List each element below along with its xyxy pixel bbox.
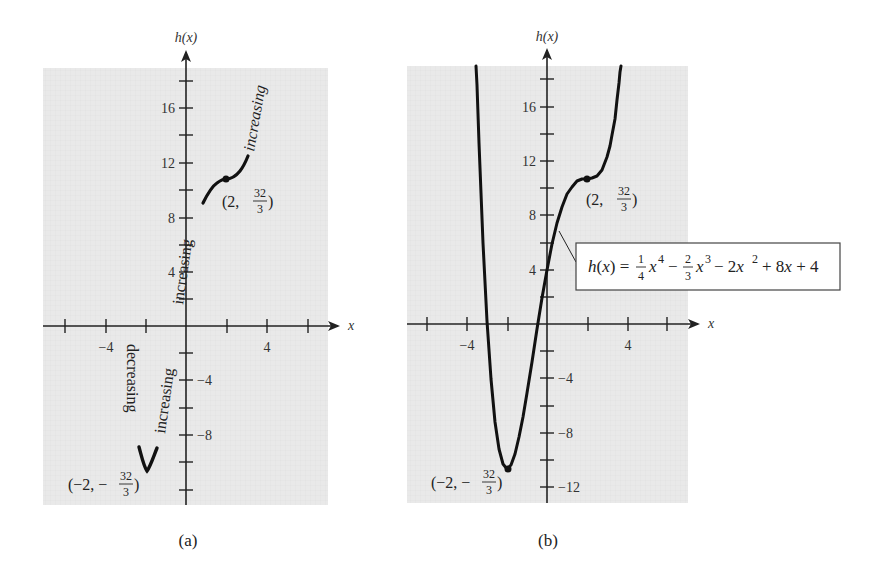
y-tick-label-8-a: 8 — [168, 211, 175, 226]
svg-text:3: 3 — [705, 252, 711, 266]
y-tick-label-neg8-b: −8 — [558, 426, 573, 441]
point-min-b — [505, 466, 512, 473]
y-tick-label-4-b: 4 — [529, 263, 536, 278]
svg-text:32: 32 — [483, 467, 495, 481]
svg-text:(−2, −: (−2, − — [431, 474, 470, 492]
svg-text:−: − — [668, 257, 678, 276]
x-axis-label-a: x — [347, 318, 355, 333]
point-max-a — [223, 176, 230, 183]
svg-text:3: 3 — [257, 202, 263, 216]
x-axis-label-b: x — [707, 316, 715, 331]
figure-canvas: h(x) x −4 4 16 12 8 4 −4 −8 (2, 32 3 ) (… — [0, 0, 883, 577]
x-tick-label-4-b: 4 — [625, 338, 632, 353]
svg-text:4: 4 — [638, 269, 644, 283]
svg-text:): ) — [134, 476, 139, 494]
svg-text:3: 3 — [685, 269, 691, 283]
y-tick-label-8-b: 8 — [529, 208, 536, 223]
y-tick-label-16-b: 16 — [522, 100, 536, 115]
svg-text:h(x) =: h(x) = — [588, 257, 629, 276]
x-tick-label-4-a: 4 — [264, 340, 271, 355]
caption-b: (b) — [538, 531, 558, 550]
y-tick-label-neg4-b: −4 — [558, 371, 573, 386]
panel-a: h(x) x −4 4 16 12 8 4 −4 −8 (2, 32 3 ) (… — [43, 30, 355, 550]
annotation-decreasing-a: decreasing — [123, 344, 141, 412]
y-tick-label-16-a: 16 — [161, 101, 175, 116]
svg-text:): ) — [268, 193, 273, 211]
y-tick-label-12-a: 12 — [161, 156, 175, 171]
y-tick-label-neg4-a: −4 — [197, 373, 212, 388]
svg-text:32: 32 — [618, 184, 630, 198]
svg-text:x: x — [695, 257, 704, 276]
svg-text:+ 8x + 4: + 8x + 4 — [762, 257, 819, 276]
svg-text:− 2x: − 2x — [714, 257, 744, 276]
svg-text:3: 3 — [123, 485, 129, 499]
x-tick-label-neg4-b: −4 — [460, 338, 475, 353]
svg-text:): ) — [632, 191, 637, 209]
svg-text:): ) — [497, 474, 502, 492]
y-tick-label-neg8-a: −8 — [197, 428, 212, 443]
svg-text:(−2, −: (−2, − — [68, 476, 107, 494]
svg-text:32: 32 — [120, 469, 132, 483]
svg-text:2: 2 — [685, 252, 691, 266]
svg-text:2: 2 — [752, 252, 758, 266]
svg-text:32: 32 — [254, 186, 266, 200]
point-max-b — [584, 176, 591, 183]
panel-b: h(x) x −4 4 16 12 8 4 −4 −8 −12 (2, 32 3… — [407, 29, 840, 550]
y-tick-label-12-b: 12 — [522, 154, 536, 169]
svg-text:4: 4 — [658, 252, 664, 266]
y-axis-label-b: h(x) — [536, 29, 559, 45]
svg-text:(2,: (2, — [586, 191, 603, 209]
svg-text:3: 3 — [486, 483, 492, 497]
svg-text:1: 1 — [638, 252, 644, 266]
y-tick-label-neg12-b: −12 — [558, 480, 580, 495]
svg-text:(2,: (2, — [222, 193, 239, 211]
caption-a: (a) — [179, 531, 198, 550]
svg-text:3: 3 — [621, 200, 627, 214]
svg-text:x: x — [648, 257, 657, 276]
x-tick-label-neg4-a: −4 — [99, 340, 114, 355]
equation-callout-b: h(x) = 1 4 x 4 − 2 3 x 3 − 2x 2 + 8x + 4 — [576, 243, 840, 290]
y-axis-label-a: h(x) — [175, 30, 198, 46]
